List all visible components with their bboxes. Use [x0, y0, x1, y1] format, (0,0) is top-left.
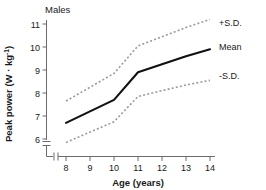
legend-label-plus-sd: +S.D. — [219, 18, 242, 28]
x-tick-label-11: 11 — [133, 163, 142, 173]
legend-label-mean: Mean — [219, 42, 242, 52]
peak-power-line-chart: Males 11 10 9 8 — [0, 0, 266, 190]
legend-label-minus-sd: -S.D. — [219, 71, 240, 81]
x-axis-title: Age (years) — [112, 177, 164, 188]
x-tick-label-12: 12 — [157, 163, 167, 173]
x-tick-label-9: 9 — [87, 163, 92, 173]
x-tick-label-10: 10 — [109, 163, 119, 173]
panel-title: Males — [45, 4, 71, 15]
y-tick-label-6: 6 — [35, 135, 40, 145]
y-tick-label-11: 11 — [31, 20, 40, 30]
y-tick-label-10: 10 — [30, 43, 40, 53]
chart-container: Males 11 10 9 8 — [0, 0, 266, 190]
y-axis-title: Peak power (W · kg-1) — [3, 46, 15, 142]
y-tick-label-9: 9 — [35, 66, 40, 76]
y-tick-label-8: 8 — [35, 89, 40, 99]
x-tick-label-14: 14 — [205, 163, 215, 173]
x-tick-label-13: 13 — [181, 163, 191, 173]
x-tick-label-8: 8 — [63, 163, 68, 173]
y-tick-label-7: 7 — [35, 112, 40, 122]
legend: +S.D. Mean -S.D. — [219, 18, 242, 81]
